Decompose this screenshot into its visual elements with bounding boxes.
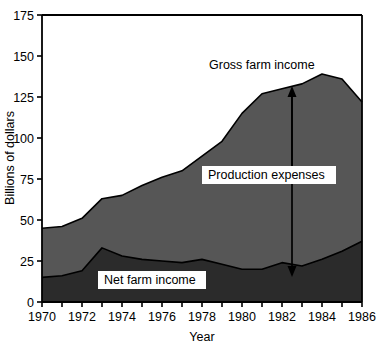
x-axis-tick-labels: 197019721974197619781980198219841986 <box>28 310 376 324</box>
y-tick-label: 50 <box>20 214 34 228</box>
x-tick-label: 1974 <box>108 310 136 324</box>
y-tick-label: 175 <box>13 9 34 23</box>
y-tick-label: 75 <box>20 173 34 187</box>
y-tick-label: 150 <box>13 50 34 64</box>
x-tick-label: 1972 <box>68 310 96 324</box>
farm-income-area-chart: 0255075100125150175 19701972197419761978… <box>0 0 385 352</box>
annotation-production-expenses: Production expenses <box>202 166 336 184</box>
y-axis-title: Billions of dollars <box>3 111 17 205</box>
y-tick-label: 0 <box>27 296 34 310</box>
x-tick-label: 1978 <box>188 310 216 324</box>
x-tick-label: 1984 <box>308 310 336 324</box>
x-tick-label: 1970 <box>28 310 56 324</box>
x-tick-label: 1986 <box>348 310 376 324</box>
annotation-gross-farm-income: Gross farm income <box>203 56 321 73</box>
production-expenses-label: Production expenses <box>208 168 325 182</box>
net-farm-income-label: Net farm income <box>104 273 196 287</box>
annotation-net-farm-income: Net farm income <box>98 271 206 289</box>
x-axis-title: Year <box>189 330 214 344</box>
y-tick-label: 125 <box>13 91 34 105</box>
y-tick-label: 25 <box>20 255 34 269</box>
x-tick-label: 1976 <box>148 310 176 324</box>
chart-canvas: 0255075100125150175 19701972197419761978… <box>0 0 385 352</box>
gross-farm-income-label: Gross farm income <box>209 58 315 72</box>
x-tick-label: 1982 <box>268 310 296 324</box>
x-tick-label: 1980 <box>228 310 256 324</box>
